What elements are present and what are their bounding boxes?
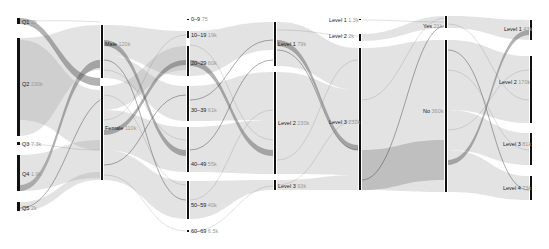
category-label: Q3 7.3k xyxy=(22,141,42,147)
category-label: Level 1 79k xyxy=(278,41,306,47)
category-bar-0-9[interactable] xyxy=(187,19,189,20)
category-bar-level-2[interactable] xyxy=(359,34,361,41)
category-label: No 360k xyxy=(423,108,444,114)
ribbons-quartile-gender xyxy=(20,18,100,211)
ribbon[interactable] xyxy=(190,72,273,121)
category-bar-level-1[interactable] xyxy=(359,19,361,20)
ribbons-age-levelA xyxy=(190,22,273,232)
category-bar-40-49[interactable] xyxy=(187,127,189,172)
category-label: Q5 2k xyxy=(22,205,37,211)
category-bar-10-19[interactable] xyxy=(187,31,189,38)
category-label: 10–19 19k xyxy=(191,32,217,38)
category-label: Q1 2k xyxy=(22,19,37,25)
category-bar-60-69[interactable] xyxy=(187,230,189,232)
category-bar-q5[interactable] xyxy=(17,202,20,211)
category-label: 50–59 40k xyxy=(191,202,217,208)
category-label: Level 3 81k xyxy=(503,141,531,147)
category-label: 0–9 75 xyxy=(191,16,208,22)
category-label: Level 4 73k xyxy=(503,185,531,191)
category-label: Male 120k xyxy=(105,41,131,47)
ribbon[interactable] xyxy=(362,40,444,130)
category-bar-level-2[interactable] xyxy=(274,72,276,174)
category-bar-q2[interactable] xyxy=(17,38,20,136)
category-label: Female 110k xyxy=(105,125,137,131)
ribbons-yesno-levelC xyxy=(448,16,529,200)
category-bar-female[interactable] xyxy=(101,86,103,180)
category-label: Level 1 43k xyxy=(504,26,532,32)
category-bar-q3[interactable] xyxy=(17,142,20,145)
ribbons-levelA-levelB xyxy=(277,22,358,190)
category-bar-level-3[interactable] xyxy=(530,133,532,165)
category-bar-q4[interactable] xyxy=(17,155,20,191)
category-label: Q2 230k xyxy=(22,81,43,87)
category-bar-50-59[interactable] xyxy=(187,181,189,219)
parallel-sets-diagram: Q1 2k Q2 230k Q3 7.3k Q4 1.9k Q5 2k Male… xyxy=(0,0,549,249)
category-label: Level 2 2k xyxy=(329,33,354,39)
category-label: Level 1 1.3k xyxy=(329,17,359,23)
ribbon[interactable] xyxy=(20,140,100,191)
category-bar-level-2[interactable] xyxy=(530,56,532,123)
category-bar-q1[interactable] xyxy=(17,18,20,24)
category-label: 40–49 55k xyxy=(191,161,217,167)
ribbon[interactable] xyxy=(190,180,273,219)
category-label: Level 3 93k xyxy=(278,183,306,189)
category-label: Level 2 170k xyxy=(499,79,530,85)
ribbons-levelB-yesno xyxy=(362,16,444,192)
category-label: Yes 21k xyxy=(423,23,443,29)
category-bar-20-29[interactable] xyxy=(187,46,189,76)
category-label: 30–39 61k xyxy=(191,107,217,113)
category-label: 20–29 60k xyxy=(191,60,217,66)
category-bar-male[interactable] xyxy=(101,25,103,78)
category-label: Level 2 230k xyxy=(278,120,309,126)
category-bar-no[interactable] xyxy=(445,40,447,192)
category-bar-30-39[interactable] xyxy=(187,86,189,121)
category-label: 60–69 6.5k xyxy=(191,228,218,234)
category-bar-level-3[interactable] xyxy=(274,180,276,190)
category-label: Level 3 230k xyxy=(329,119,360,125)
category-label: Q4 1.9k xyxy=(22,171,42,177)
category-bar-yes[interactable] xyxy=(445,16,447,28)
category-bar-level-1[interactable] xyxy=(274,22,276,66)
